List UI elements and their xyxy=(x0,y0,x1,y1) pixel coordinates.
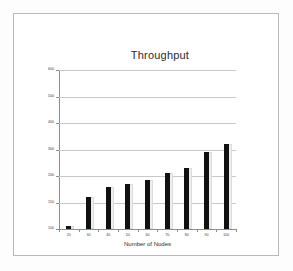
slide-canvas: Throughput 600500400300200150100 2030405… xyxy=(0,0,293,271)
x-axis-tick-label: 40 xyxy=(106,234,110,238)
bar-slot xyxy=(184,70,189,229)
x-axis-tick-mark xyxy=(98,229,99,232)
bar[interactable] xyxy=(204,152,209,229)
bar[interactable] xyxy=(165,173,170,229)
bar[interactable] xyxy=(86,197,91,229)
x-axis-tick-label: 30 xyxy=(87,234,91,238)
bar[interactable] xyxy=(125,184,130,229)
x-axis-tick-mark xyxy=(157,229,158,232)
bar-slot xyxy=(145,70,150,229)
bar[interactable] xyxy=(224,144,229,229)
plot-area: 600500400300200150100 203040506070809010… xyxy=(59,70,236,229)
x-axis-title: Number of Nodes xyxy=(59,241,236,247)
x-axis-tick-mark xyxy=(138,229,139,232)
x-axis-tick-label: 90 xyxy=(205,234,209,238)
bar-slot xyxy=(165,70,170,229)
x-axis-tick-mark xyxy=(79,229,80,232)
x-axis-tick-mark xyxy=(59,229,60,232)
bar-slot xyxy=(125,70,130,229)
x-axis-tick-mark xyxy=(236,229,237,232)
chart-title: Throughput xyxy=(14,49,278,61)
x-axis-tick-label: 100 xyxy=(223,234,229,238)
bar-slot xyxy=(204,70,209,229)
bar-slot xyxy=(66,70,71,229)
bar-slot xyxy=(106,70,111,229)
chart-object-frame[interactable]: Throughput 600500400300200150100 2030405… xyxy=(13,13,279,256)
x-axis-tick-mark xyxy=(118,229,119,232)
bars-group xyxy=(59,70,236,229)
x-axis-tick-label: 80 xyxy=(185,234,189,238)
x-axis-tick-label: 50 xyxy=(126,234,130,238)
bar[interactable] xyxy=(106,187,111,229)
x-axis-tick-mark xyxy=(216,229,217,232)
bar-slot xyxy=(86,70,91,229)
bar[interactable] xyxy=(145,180,150,229)
x-axis-tick-label: 60 xyxy=(146,234,150,238)
x-axis-tick-label: 20 xyxy=(67,234,71,238)
bar[interactable] xyxy=(66,226,71,229)
axis-baseline xyxy=(59,229,236,230)
x-axis-tick-mark xyxy=(177,229,178,232)
x-axis-tick-mark xyxy=(197,229,198,232)
bar[interactable] xyxy=(184,168,189,229)
bar-slot xyxy=(224,70,229,229)
x-axis-tick-label: 70 xyxy=(165,234,169,238)
